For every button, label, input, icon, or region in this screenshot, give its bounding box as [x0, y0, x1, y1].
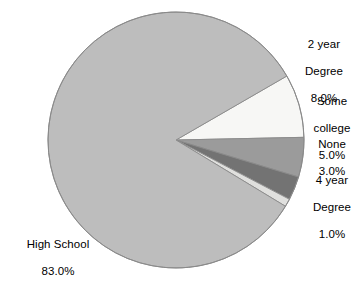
slice-label-line: None	[300, 138, 364, 152]
slice-label-line: Degree	[284, 65, 364, 79]
slice-label-line: High School	[6, 238, 110, 252]
slice-label-line: Degree	[300, 201, 364, 215]
slice-label-high-school: High School 83.0%	[6, 224, 110, 289]
slice-label-line: Some	[300, 95, 364, 109]
slice-value-high-school: 83.0%	[6, 265, 110, 279]
slice-label-four-year-degree: 4 year Degree 1.0%	[300, 160, 364, 255]
slice-value-four-year-degree: 1.0%	[300, 228, 364, 242]
slice-label-line: 2 year	[284, 38, 364, 52]
slice-label-line: 4 year	[300, 174, 364, 188]
pie-chart: 2 year Degree 8.0% Some college 5.0% Non…	[0, 0, 364, 289]
